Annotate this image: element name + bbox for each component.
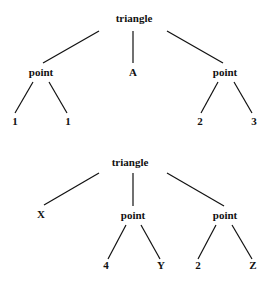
edge-point-right-2 — [201, 82, 218, 113]
tree-1-node-point-left: point — [29, 66, 54, 78]
edge-point-right-3 — [234, 82, 252, 113]
tree-2-node-point-right: point — [213, 209, 238, 221]
tree-2-leaf-y: Y — [157, 259, 165, 271]
tree-2-root-label: triangle — [112, 156, 149, 168]
edge-point-right-z — [232, 225, 252, 259]
edge-point-left-1a — [15, 82, 33, 113]
edge-triangle-point-right — [167, 31, 223, 63]
tree-2-leaf-z: Z — [249, 259, 256, 271]
tree-1-leaf-2: 2 — [197, 115, 203, 127]
edge-point-left-1b — [49, 82, 67, 113]
tree-2-node-point-mid: point — [121, 209, 146, 221]
tree-1-node-point-right: point — [213, 66, 238, 78]
tree-1-leaf-3: 3 — [251, 115, 257, 127]
tree-2: triangle X point point 4 Y 2 Z — [37, 156, 257, 271]
tree-1-root-label: triangle — [116, 12, 153, 24]
edge-point-mid-4 — [108, 225, 126, 259]
parse-tree-diagram: triangle point A point 1 1 2 3 triangle … — [0, 0, 271, 288]
edge-triangle-point-left — [43, 31, 99, 63]
edge-point-right-2 — [198, 225, 216, 259]
tree-1-node-a: A — [129, 66, 137, 78]
tree-1-leaf-1a: 1 — [12, 115, 18, 127]
edge-triangle-point-right — [167, 173, 224, 206]
tree-2-node-x: X — [37, 208, 45, 220]
tree-2-leaf-2: 2 — [195, 259, 201, 271]
tree-2-leaf-4: 4 — [103, 259, 109, 271]
tree-1: triangle point A point 1 1 2 3 — [12, 12, 257, 127]
edge-point-mid-y — [141, 225, 160, 259]
edge-triangle-x — [44, 173, 99, 205]
tree-1-leaf-1b: 1 — [65, 115, 71, 127]
